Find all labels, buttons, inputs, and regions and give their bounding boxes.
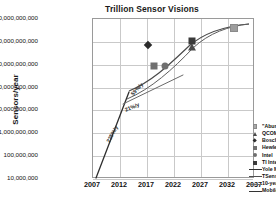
legend-marker-icon (248, 191, 262, 192)
y-tick-label: 100,000,000,000,000 (0, 14, 38, 21)
trend-curves (93, 19, 255, 179)
y-tick-label: 100,000,000 (0, 151, 38, 158)
y-tick-label: 10,000,000,000,000 (0, 37, 38, 44)
legend-marker-icon (248, 132, 262, 136)
data-point-intel (161, 62, 168, 69)
legend-marker-icon (248, 169, 262, 170)
data-point-ti-internet-devices (189, 37, 196, 44)
legend-marker-icon (248, 153, 262, 157)
data-point-qcom-swarm-lab-ucb (188, 43, 196, 50)
legend-item-label: TSensors Bryzek's Vision (262, 174, 276, 180)
legend-item-label: Intel (262, 153, 273, 159)
y-tick-label: 10,000,000,000 (0, 105, 38, 112)
legend-item-label: TI Internet devices (262, 160, 276, 166)
data-point-abundance (230, 24, 238, 32)
legend-item-label: Hewlett-Packard (262, 145, 276, 151)
curve-yole-mems-forecast (129, 24, 249, 91)
chart-title: Trillion Sensor Visions (0, 4, 276, 14)
data-point-hewlett-packard (151, 62, 158, 69)
legend-marker-icon (248, 124, 262, 129)
chart-legend: "Abundance"QCOM Swarm Lab, UCBBoschHewle… (248, 123, 276, 195)
legend-item-label: Yole MEMS Forecast, 2013 (262, 167, 276, 173)
curve-tsensors-bryzek-vision (127, 24, 249, 99)
plot-area: 225%/y21%/y59%/y "Abundance"QCOM Swarm L… (92, 18, 254, 178)
legend-marker-icon (248, 184, 262, 185)
legend-item-label: Bosch (262, 138, 276, 144)
gridline-horizontal (93, 179, 253, 180)
chart-container: Trillion Sensor Visions Sensors/year 100… (0, 0, 276, 203)
legend-marker-icon (248, 146, 262, 150)
legend-item: Mobile Sensors Explosion (248, 188, 276, 195)
y-tick-label: 1,000,000,000,000 (0, 60, 38, 67)
legend-marker-icon (248, 176, 262, 177)
legend-item-label: QCOM Swarm Lab, UCB (262, 131, 276, 137)
y-tick-label: 1,000,000,000 (0, 128, 38, 135)
legend-item: Hewlett-Packard (248, 145, 276, 152)
legend-item-label: Mobile Sensors Explosion (262, 188, 276, 194)
legend-item-label: 10-year slope (262, 181, 276, 187)
legend-item: Intel (248, 152, 276, 159)
legend-marker-icon (248, 139, 262, 142)
legend-marker-icon (248, 161, 262, 165)
y-tick-label: 10,000,000 (0, 174, 38, 181)
y-tick-label: 100,000,000,000 (0, 83, 38, 90)
legend-item-label: "Abundance" (262, 124, 276, 130)
